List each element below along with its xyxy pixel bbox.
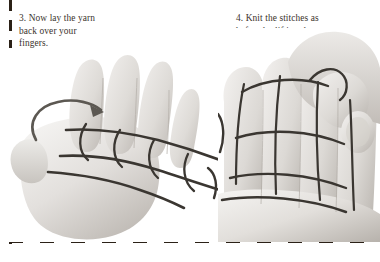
step-3-photo — [8, 48, 220, 242]
instruction-page: 3. Now lay the yarn back over your finge… — [0, 0, 380, 262]
step-3-caption: 3. Now lay the yarn back over your finge… — [19, 12, 141, 50]
step-4-photo — [218, 28, 380, 242]
